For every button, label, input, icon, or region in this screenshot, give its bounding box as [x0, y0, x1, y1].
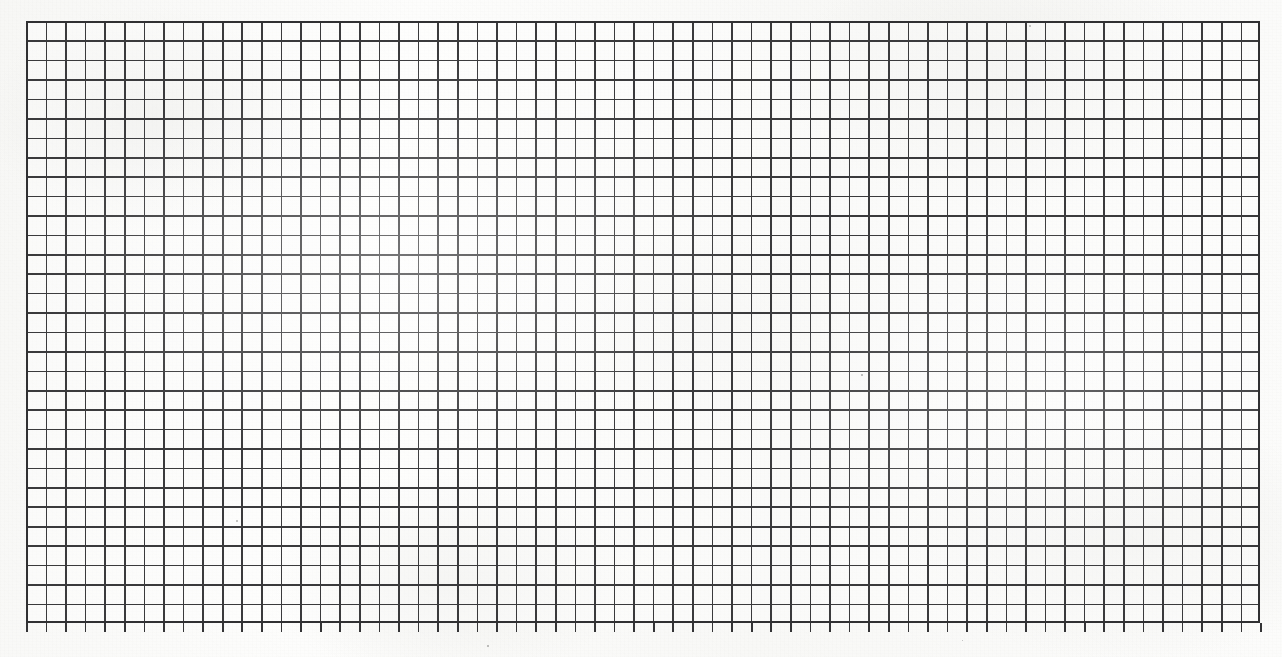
axis-tick-mark: [398, 623, 400, 632]
axis-tick-mark: [359, 623, 361, 632]
axis-tick-mark: [183, 623, 185, 632]
axis-tick-mark: [555, 623, 557, 632]
axis-tick-mark: [1182, 623, 1184, 632]
axis-tick-mark: [633, 623, 635, 632]
axis-tick-mark: [1084, 623, 1086, 632]
axis-tick-mark: [144, 623, 146, 632]
axis-tick-mark: [202, 623, 204, 632]
scan-speck: [487, 645, 489, 647]
axis-tick-mark: [65, 623, 67, 632]
axis-tick-mark: [1103, 623, 1105, 632]
grid-ruling-lines: [26, 21, 1260, 623]
axis-tick-mark: [575, 623, 577, 632]
grid-frame-right-edge: [1258, 21, 1260, 623]
axis-tick-mark: [496, 623, 498, 632]
axis-tick-mark: [927, 623, 929, 632]
axis-tick-mark: [241, 623, 243, 632]
axis-tick-mark: [849, 623, 851, 632]
axis-tick-mark: [770, 623, 772, 632]
axis-tick-mark: [1006, 623, 1008, 632]
axis-tick-mark: [594, 623, 596, 632]
axis-tick-mark: [1025, 623, 1027, 632]
grid-frame-left-edge: [26, 21, 28, 623]
axis-tick-mark: [281, 623, 283, 632]
axis-tick-mark: [477, 623, 479, 632]
axis-tick-mark: [46, 623, 48, 632]
grid-frame-top-edge: [26, 21, 1260, 23]
scan-speck: [962, 640, 963, 641]
axis-tick-mark: [222, 623, 224, 632]
axis-tick-mark: [320, 623, 322, 632]
axis-tick-mark: [790, 623, 792, 632]
axis-tick-mark: [1162, 623, 1164, 632]
axis-tick-mark: [339, 623, 341, 632]
axis-tick-mark: [516, 623, 518, 632]
axis-tick-mark: [124, 623, 126, 632]
axis-tick-mark: [810, 623, 812, 632]
axis-tick-mark: [163, 623, 165, 632]
axis-tick-mark: [653, 623, 655, 632]
graph-paper-sheet: [0, 0, 1282, 657]
axis-tick-mark: [261, 623, 263, 632]
axis-tick-mark: [692, 623, 694, 632]
axis-tick-mark: [614, 623, 616, 632]
axis-tick-mark: [672, 623, 674, 632]
axis-tick-mark: [437, 623, 439, 632]
axis-tick-mark: [457, 623, 459, 632]
bottom-axis-tick-row: [26, 623, 1266, 632]
axis-tick-mark: [947, 623, 949, 632]
axis-tick-mark: [104, 623, 106, 632]
axis-tick-mark: [1241, 623, 1243, 632]
axis-tick-mark: [85, 623, 87, 632]
axis-tick-mark: [731, 623, 733, 632]
axis-tick-mark: [868, 623, 870, 632]
axis-tick-mark: [535, 623, 537, 632]
axis-tick-mark: [26, 623, 28, 632]
axis-tick-mark: [418, 623, 420, 632]
axis-tick-mark: [1123, 623, 1125, 632]
axis-tick-mark: [908, 623, 910, 632]
axis-tick-mark: [379, 623, 381, 632]
graph-paper-grid: [26, 21, 1260, 623]
axis-tick-mark: [1064, 623, 1066, 632]
axis-tick-mark: [986, 623, 988, 632]
axis-tick-mark: [888, 623, 890, 632]
axis-tick-mark: [751, 623, 753, 632]
axis-tick-mark: [1045, 623, 1047, 632]
axis-tick-mark: [1221, 623, 1223, 632]
axis-tick-mark: [1260, 623, 1262, 632]
axis-tick-mark: [1201, 623, 1203, 632]
axis-tick-mark: [1143, 623, 1145, 632]
axis-tick-mark: [300, 623, 302, 632]
axis-tick-mark: [712, 623, 714, 632]
axis-tick-mark: [966, 623, 968, 632]
axis-tick-mark: [829, 623, 831, 632]
